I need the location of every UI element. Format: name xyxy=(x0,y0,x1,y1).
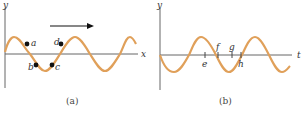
wave-diagram: y x a b c d (a) y t e f g h (b) xyxy=(0,0,304,115)
tick-label-h: h xyxy=(238,59,244,69)
t-axis-label-b: t xyxy=(297,50,301,60)
point-a xyxy=(25,42,30,47)
tick-label-g: g xyxy=(229,42,235,52)
panel-a: y x a b c d (a) xyxy=(2,0,146,106)
point-c xyxy=(50,63,55,68)
y-axis-label-a: y xyxy=(2,0,9,10)
arrow-propagation-icon xyxy=(50,23,94,29)
panel-b: y t e f g h (b) xyxy=(156,0,301,106)
y-axis-label-b: y xyxy=(156,0,163,10)
point-label-a: a xyxy=(31,38,36,48)
point-label-c: c xyxy=(55,62,60,72)
x-axis-label-a: x xyxy=(141,49,146,59)
caption-b: (b) xyxy=(219,96,232,106)
tick-label-e: e xyxy=(202,59,207,69)
point-label-d: d xyxy=(54,37,60,47)
point-b xyxy=(34,63,39,68)
caption-a: (a) xyxy=(66,96,78,106)
point-label-b: b xyxy=(28,62,34,72)
tick-label-f: f xyxy=(215,42,221,52)
